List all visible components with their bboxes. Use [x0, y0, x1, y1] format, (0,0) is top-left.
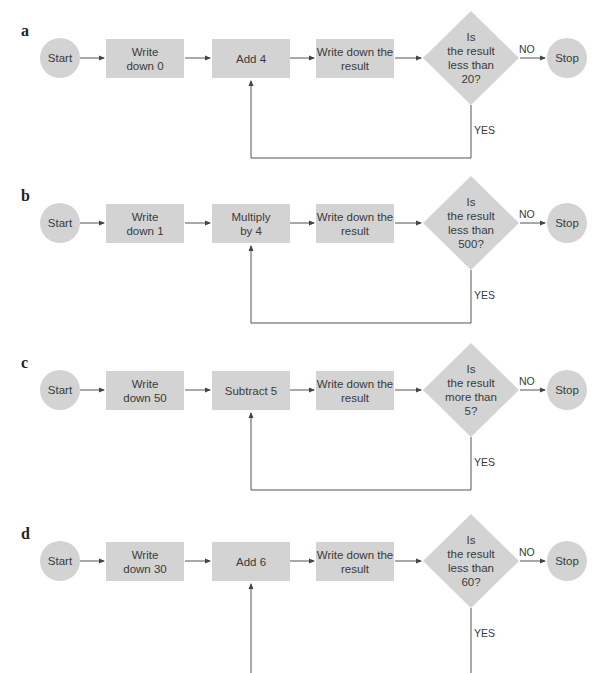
stop-node: Stop	[547, 370, 587, 410]
no-label: NO	[519, 43, 535, 55]
connector-lines	[0, 0, 604, 170]
step-1: Write down 0	[106, 39, 184, 78]
yes-label: YES	[474, 289, 495, 301]
yes-label: YES	[474, 124, 495, 136]
no-label: NO	[519, 208, 535, 220]
step-2: Subtract 5	[212, 371, 290, 410]
start-node: Start	[40, 541, 80, 581]
decision-text: Isthe resultless than60?	[431, 533, 511, 589]
flowchart-c: c Start Write down 50 Subtract 5 Write d…	[0, 332, 604, 502]
yes-label: YES	[474, 456, 495, 468]
stop-node: Stop	[547, 38, 587, 78]
decision-text: Isthe resultless than20?	[431, 30, 511, 86]
section-label: d	[21, 525, 30, 543]
step-3: Write down the result	[316, 542, 394, 581]
flowchart-b: b Start Write down 1 Multiply by 4 Write…	[0, 165, 604, 335]
section-label: b	[21, 187, 30, 205]
yes-label: YES	[474, 627, 495, 639]
section-label: c	[21, 354, 28, 372]
stop-node: Stop	[547, 541, 587, 581]
start-node: Start	[40, 203, 80, 243]
step-3: Write down the result	[316, 371, 394, 410]
stop-node: Stop	[547, 203, 587, 243]
decision-text: Isthe resultmore than5?	[431, 362, 511, 418]
connector-lines	[0, 503, 604, 673]
no-label: NO	[519, 375, 535, 387]
start-node: Start	[40, 370, 80, 410]
step-3: Write down the result	[316, 39, 394, 78]
connector-lines	[0, 165, 604, 335]
step-1: Write down 30	[106, 542, 184, 581]
step-2: Add 6	[212, 542, 290, 581]
flowchart-d: d Start Write down 30 Add 6 Write down t…	[0, 503, 604, 673]
flowchart-a: a Start Write down 0 Add 4 Write down th…	[0, 0, 604, 170]
step-2: Multiply by 4	[212, 204, 290, 243]
no-label: NO	[519, 546, 535, 558]
step-2: Add 4	[212, 39, 290, 78]
section-label: a	[21, 22, 29, 40]
start-node: Start	[40, 38, 80, 78]
step-3: Write down the result	[316, 204, 394, 243]
step-1: Write down 1	[106, 204, 184, 243]
decision-text: Isthe resultless than500?	[431, 195, 511, 251]
step-1: Write down 50	[106, 371, 184, 410]
connector-lines	[0, 332, 604, 502]
